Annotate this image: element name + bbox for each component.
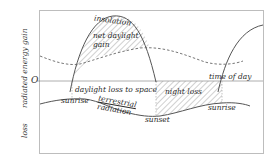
night-loss-label: night loss xyxy=(165,88,202,96)
net-daylight-gain-label-line1: net daylight xyxy=(93,32,139,40)
y-axis-label: radiated energy xyxy=(21,47,29,108)
loss-label: loss xyxy=(21,123,29,138)
radiation-balance-diagram: radiated energy gain loss O time of day … xyxy=(0,0,278,164)
sunset-label: sunset xyxy=(145,116,170,124)
terrestrial-radiation-mirror-curve xyxy=(40,48,243,65)
sunrise-right-label: sunrise xyxy=(208,104,236,112)
daylight-loss-label: daylight loss to space xyxy=(75,86,157,94)
gain-label: gain xyxy=(21,28,29,45)
net-daylight-gain-label-line2: gain xyxy=(93,41,110,49)
diagram-graphics xyxy=(0,0,278,164)
frame xyxy=(40,11,264,154)
sunrise-left-label: sunrise xyxy=(61,97,89,105)
zero-label: O xyxy=(31,76,38,85)
insolation-curve-next-day xyxy=(218,25,263,92)
x-axis-label: time of day xyxy=(209,73,252,81)
